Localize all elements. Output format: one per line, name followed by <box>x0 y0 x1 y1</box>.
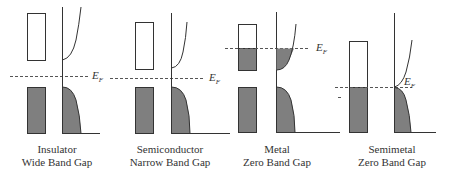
fermi-subscript: F <box>216 78 220 86</box>
fermi-label-semiconductor: EF <box>209 71 220 86</box>
conduction-band-box <box>28 14 46 61</box>
panel-metal <box>225 12 341 133</box>
valence-band-box <box>28 88 46 134</box>
caption-subtitle: Zero Band Gap <box>337 156 447 169</box>
caption-subtitle: Zero Band Gap <box>222 156 332 169</box>
panel-semimetal <box>335 13 436 133</box>
valence-band-box <box>239 88 257 133</box>
fermi-label-metal: EF <box>316 41 327 56</box>
caption-insulator: Insulator Wide Band Gap <box>2 143 112 169</box>
caption-title: Metal <box>222 143 332 156</box>
fermi-label-semimetal: EF <box>404 75 415 90</box>
conduction-dos-curve <box>172 22 188 68</box>
valence-band-box <box>350 88 368 133</box>
conduction-band-box <box>136 23 154 70</box>
valence-dos-filled <box>172 87 191 134</box>
fermi-subscript: F <box>411 82 415 90</box>
fermi-symbol: E <box>316 41 323 53</box>
valence-dos-filled <box>63 87 82 134</box>
valence-dos-filled <box>395 88 412 133</box>
conduction-dos-curve <box>63 7 82 60</box>
caption-title: Semiconductor <box>115 143 225 156</box>
valence-dos-filled <box>277 87 296 133</box>
caption-subtitle: Wide Band Gap <box>2 156 112 169</box>
caption-metal: Metal Zero Band Gap <box>222 143 332 169</box>
fermi-label-insulator: EF <box>92 69 103 84</box>
conduction-band-box-filled <box>239 49 257 71</box>
valence-band-box <box>136 88 154 134</box>
caption-semimetal: Semimetal Zero Band Gap <box>337 143 447 169</box>
caption-title: Semimetal <box>337 143 447 156</box>
fermi-symbol: E <box>209 71 216 83</box>
fermi-symbol: E <box>92 69 99 81</box>
conduction-band-box <box>350 42 368 88</box>
fermi-subscript: F <box>323 48 327 56</box>
caption-subtitle: Narrow Band Gap <box>115 156 225 169</box>
panel-insulator <box>10 7 100 134</box>
caption-title: Insulator <box>2 143 112 156</box>
conduction-band-box-empty <box>239 25 257 49</box>
fermi-symbol: E <box>404 75 411 87</box>
caption-semiconductor: Semiconductor Narrow Band Gap <box>115 143 225 169</box>
fermi-subscript: F <box>99 76 103 84</box>
